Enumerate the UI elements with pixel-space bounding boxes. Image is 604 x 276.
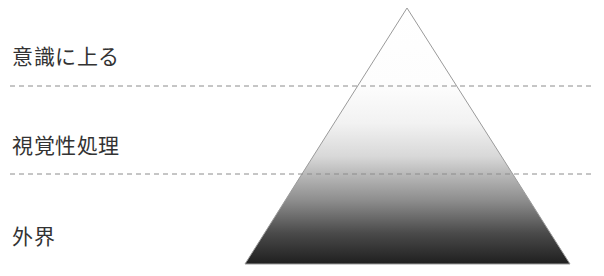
tier-label-conscious: 意識に上る xyxy=(12,46,120,69)
pyramid-triangle xyxy=(245,8,570,264)
pyramid-diagram: 意識に上る 視覚性処理 外界 xyxy=(0,0,604,276)
tier-label-external-world: 外界 xyxy=(12,226,55,249)
tier-label-visual-processing: 視覚性処理 xyxy=(12,135,120,158)
